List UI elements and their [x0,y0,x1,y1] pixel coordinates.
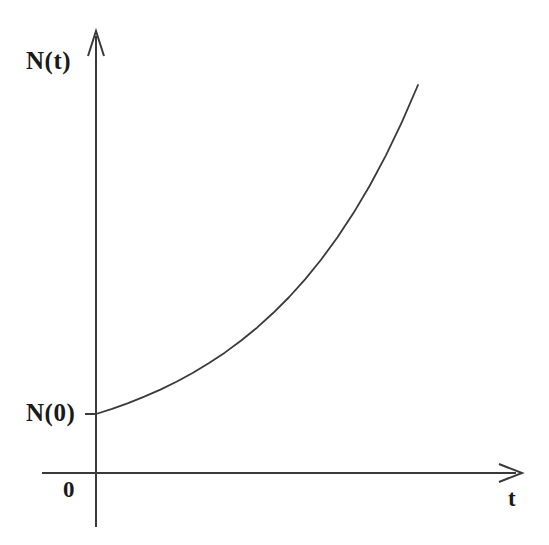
initial-value-label: N(0) [26,400,75,425]
exponential-growth-curve [96,85,418,414]
x-axis-label: t [508,487,516,510]
y-axis-label: N(t) [26,48,71,73]
exponential-growth-figure: N(t) N(0) 0 t [0,0,549,545]
origin-label: 0 [63,478,75,501]
plot-canvas [0,0,549,545]
